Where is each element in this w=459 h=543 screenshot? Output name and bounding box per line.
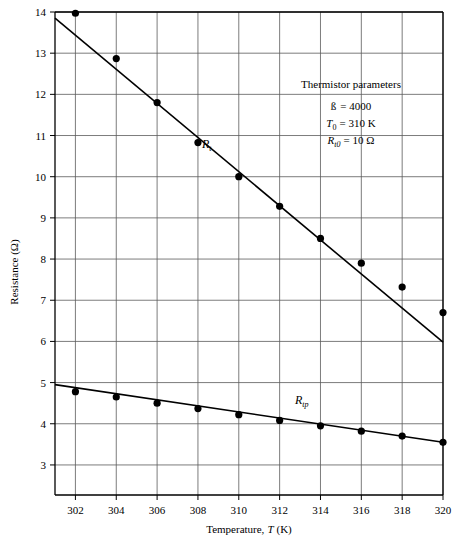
y-tick-label: 9 [41,212,47,224]
data-point-r_t [439,309,446,316]
x-axis-title-symbol: T [267,523,274,535]
data-point-r_tp [72,388,79,395]
annotation-rt0: Rt0= 10 Ω [327,134,375,149]
data-point-r_t [276,203,283,210]
data-point-r_t [358,260,365,267]
data-point-r_tp [235,411,242,418]
x-tick-label: 316 [353,504,370,516]
data-points [72,10,447,446]
y-tick-label: 6 [41,335,47,347]
y-axis-title: Resistance (Ω) [8,239,21,305]
y-tick-label: 10 [35,171,47,183]
x-tick-label: 302 [67,504,84,516]
annotation-box: Thermistor parameters ß= 4000 T0= 310 K … [301,78,401,149]
x-tick-label: 304 [108,504,125,516]
fit-line-r_tp [55,385,443,443]
x-axis-title-prefix: Temperature, [206,523,264,535]
x-tick-label: 310 [231,504,248,516]
y-tick-label: 5 [41,377,47,389]
y-tick-label: 7 [41,294,47,306]
y-tick-label: 3 [41,459,47,471]
x-tick-label: 320 [435,504,452,516]
data-point-r_tp [439,439,446,446]
y-tick-label: 8 [41,253,47,265]
y-tick-label: 14 [35,6,47,18]
chart-figure: 34567891011121314 3023043063083103123143… [0,0,459,543]
x-tick-label: 306 [149,504,166,516]
x-axis-title: Temperature,T(K) [206,523,292,536]
x-tick-label: 318 [394,504,411,516]
x-tick-label: 314 [312,504,329,516]
data-point-r_t [72,10,79,17]
data-point-r_tp [276,417,283,424]
data-point-r_t [154,99,161,106]
data-point-r_t [317,235,324,242]
data-point-r_t [113,55,120,62]
annotation-beta: ß= 4000 [331,100,372,112]
y-tick-label: 13 [35,47,47,59]
series-label-rt: Rt [201,137,212,153]
data-point-r_t [194,139,201,146]
series-label-rtp: Rtp [294,393,309,409]
y-tick-label: 11 [35,130,46,142]
annotation-title: Thermistor parameters [301,78,401,90]
x-axis-title-unit: (K) [277,523,293,536]
data-point-r_t [235,173,242,180]
data-point-r_tp [194,405,201,412]
data-point-r_tp [113,393,120,400]
x-tick-label: 308 [190,504,207,516]
data-point-r_tp [358,428,365,435]
y-tick-labels: 34567891011121314 [35,6,47,471]
x-tick-labels: 302304306308310312314316318320 [67,504,452,516]
y-tick-label: 12 [35,88,46,100]
x-tick-label: 312 [271,504,288,516]
annotation-t0: T0= 310 K [326,117,375,132]
data-point-r_t [399,283,406,290]
chart-svg: 34567891011121314 3023043063083103123143… [0,0,459,543]
fit-line-r_t [55,18,443,342]
data-point-r_tp [154,400,161,407]
y-tick-label: 4 [41,418,47,430]
data-point-r_tp [399,433,406,440]
data-point-r_tp [317,422,324,429]
